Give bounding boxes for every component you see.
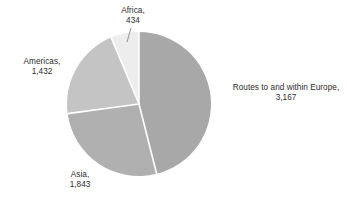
pie-chart-figure: Africa, 434 Americas, 1,432 Asia, 1,843 … bbox=[0, 0, 347, 200]
pie-label-asia-name: Asia, bbox=[48, 170, 112, 180]
pie-label-americas-value: 1,432 bbox=[2, 67, 82, 77]
pie-label-americas-name: Americas, bbox=[2, 57, 82, 67]
pie-label-europe-value: 3,167 bbox=[227, 93, 345, 103]
pie-label-asia-value: 1,843 bbox=[48, 180, 112, 190]
pie-label-africa-name: Africa, bbox=[96, 6, 170, 16]
pie-label-europe: Routes to and within Europe, 3,167 bbox=[227, 83, 345, 103]
pie-label-africa: Africa, 434 bbox=[96, 6, 170, 26]
pie-label-asia: Asia, 1,843 bbox=[48, 170, 112, 190]
pie-label-americas: Americas, 1,432 bbox=[2, 57, 82, 77]
pie-label-africa-value: 434 bbox=[96, 16, 170, 26]
pie-label-europe-name: Routes to and within Europe, bbox=[227, 83, 345, 93]
